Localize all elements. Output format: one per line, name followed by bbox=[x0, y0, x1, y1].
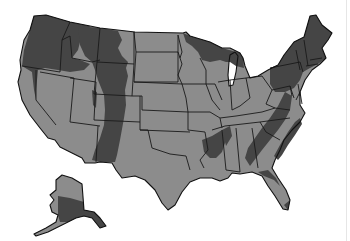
alaska-inset bbox=[34, 175, 106, 236]
us-map bbox=[0, 0, 350, 241]
